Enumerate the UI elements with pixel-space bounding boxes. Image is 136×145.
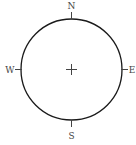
east-label: E bbox=[129, 65, 136, 75]
compass-diagram: N S W E bbox=[0, 0, 136, 145]
south-label: S bbox=[68, 131, 74, 141]
center-crosshair-icon bbox=[66, 64, 77, 75]
north-label: N bbox=[68, 1, 76, 11]
west-label: W bbox=[5, 65, 15, 75]
